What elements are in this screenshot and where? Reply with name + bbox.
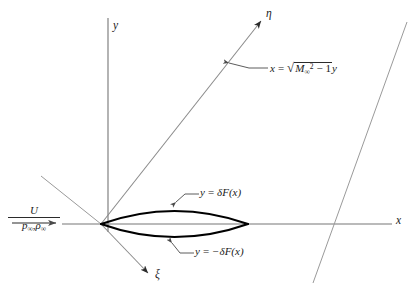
mach-eq-trailing-y: y	[332, 62, 337, 74]
radicand: M∞2− 1	[294, 62, 332, 75]
lower-surface-equation: y=−δF(x)	[195, 246, 244, 257]
freestream-static-conditions: p∞,ρ∞	[8, 217, 60, 233]
freestream-conditions: U p∞,ρ∞	[8, 204, 60, 233]
lower-surface-leader	[172, 243, 194, 253]
mach-eq-equals: =	[275, 62, 287, 74]
upper-eq-rhs: δF(x)	[217, 186, 241, 198]
freestream-density-subscript: ∞	[41, 224, 46, 233]
upper-surface-equation: y=δF(x)	[200, 187, 241, 198]
mach-line-equation: x=√M∞2− 1y	[270, 60, 337, 75]
upper-surface-leader	[176, 194, 199, 202]
mach-line-leader	[229, 63, 268, 68]
freestream-velocity-label: U	[8, 204, 60, 217]
airfoil-upper-surface	[101, 211, 248, 224]
eta-axis-label: η	[266, 8, 272, 20]
x-axis-label: x	[396, 215, 401, 227]
mach-number-exponent: 2	[310, 62, 314, 71]
upper-eq-equals: =	[205, 186, 217, 198]
figure-canvas: y x η ξ U p∞,ρ∞ x=√M∞2− 1y y=δF(x) y=−δF…	[0, 0, 415, 296]
airfoil-lower-surface	[101, 224, 248, 237]
mach-eq-radical-group: √M∞2− 1	[287, 60, 332, 75]
lower-eq-rhs: −δF(x)	[212, 245, 243, 257]
xi-axis-label: ξ	[155, 269, 160, 281]
y-axis-label: y	[113, 20, 118, 32]
mach-eq-minus-one: − 1	[314, 62, 331, 74]
radical-sign: √	[287, 60, 294, 75]
lower-eq-equals: =	[200, 245, 212, 257]
